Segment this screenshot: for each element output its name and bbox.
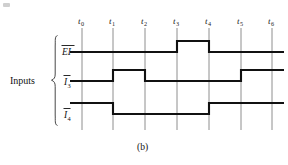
- tick-label-t3: t3: [173, 16, 179, 27]
- signal-labels: EI I3 I4: [61, 46, 75, 122]
- waveform-EI: [70, 41, 284, 52]
- signal-label-I3-text: I3: [63, 77, 71, 89]
- signal-label-I4: I4: [63, 109, 72, 122]
- tick-label-t4: t4: [205, 16, 211, 27]
- inputs-brace: [52, 36, 58, 126]
- timing-diagram-canvas: t0 t1 t2 t3 t4 t5 t6 EI I3 I4: [0, 0, 288, 165]
- signal-label-EI-text: EI: [61, 47, 72, 57]
- tick-label-t2: t2: [141, 16, 147, 27]
- tick-label-t0: t0: [78, 16, 84, 27]
- tick-label-t5: t5: [237, 16, 243, 27]
- tick-label-t6: t6: [268, 16, 274, 27]
- figure-caption: (b): [137, 142, 148, 153]
- signal-label-I4-text: I4: [63, 110, 72, 122]
- inputs-group-label: Inputs: [10, 75, 35, 86]
- tick-label-t1: t1: [109, 16, 115, 27]
- time-tick-labels: t0 t1 t2 t3 t4 t5 t6: [78, 16, 274, 27]
- timing-diagram-figure: t0 t1 t2 t3 t4 t5 t6 EI I3 I4: [0, 0, 288, 165]
- page-corner-mark: [3, 3, 10, 7]
- signal-label-I3: I3: [63, 76, 71, 89]
